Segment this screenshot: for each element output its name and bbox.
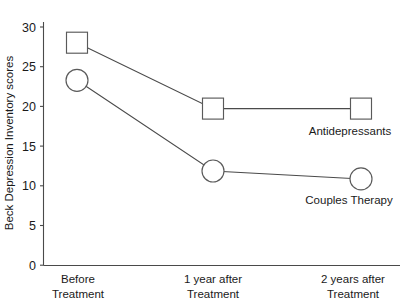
line-chart-canvas: 30 25 20 15 10 5 0 Beck Depression Inven…: [0, 0, 410, 307]
x-category-label-line2: Treatment: [52, 288, 105, 300]
y-tick-label: 15: [22, 140, 36, 154]
x-category-label-line2: Treatment: [187, 288, 240, 300]
series-label-antidepressants: Antidepressants: [309, 125, 392, 137]
y-axis-title: Beck Depression Inventory scores: [3, 56, 15, 231]
data-point-marker-square: [67, 32, 88, 53]
y-tick-label: 30: [22, 21, 36, 35]
y-axis-tick-labels: 30 25 20 15 10 5 0: [22, 21, 36, 273]
x-category-label-line1: 1 year after: [184, 273, 242, 285]
data-point-marker-square: [203, 98, 224, 119]
x-category-label-line1: 2 years after: [321, 273, 385, 285]
data-point-marker-circle: [66, 69, 88, 91]
y-tick-label: 20: [22, 100, 36, 114]
series-label-couples-therapy: Couples Therapy: [305, 194, 393, 206]
series-antidepressants: [67, 32, 372, 119]
x-axis-category-labels: Before Treatment 1 year after Treatment …: [52, 273, 385, 300]
data-point-marker-circle: [202, 160, 224, 182]
data-point-marker-square: [351, 98, 372, 119]
data-point-marker-circle: [350, 168, 372, 190]
y-tick-label: 5: [29, 219, 36, 233]
x-category-label-line1: Before: [61, 273, 95, 285]
chart-figure: 30 25 20 15 10 5 0 Beck Depression Inven…: [0, 0, 410, 307]
y-tick-label: 25: [22, 60, 36, 74]
x-category-label-line2: Treatment: [327, 288, 380, 300]
y-tick-label: 0: [29, 259, 36, 273]
y-tick-label: 10: [22, 179, 36, 193]
